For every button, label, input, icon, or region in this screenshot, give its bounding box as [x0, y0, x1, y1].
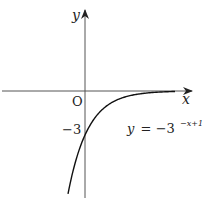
y-axis-label: y — [71, 7, 81, 23]
x-axis-label: x — [182, 91, 190, 107]
curve — [68, 91, 175, 193]
origin-label: O — [72, 94, 83, 109]
equation-label: y = −3 −x+1 — [126, 119, 203, 136]
function-graph: y x O −3 y = −3 −x+1 — [0, 0, 216, 203]
y-intercept-label: −3 — [62, 122, 81, 137]
